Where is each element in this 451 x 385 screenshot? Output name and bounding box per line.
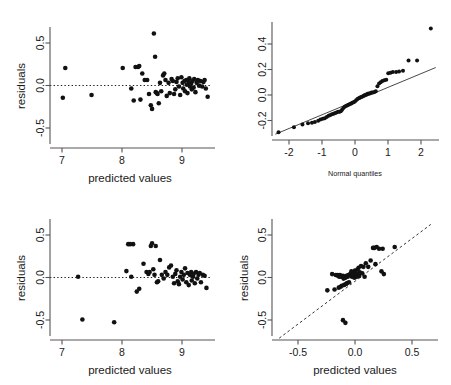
ytick-label: 0.0 [256, 270, 268, 285]
y-axis-title: residuals [15, 255, 27, 301]
data-point [174, 268, 179, 273]
data-point [178, 93, 183, 98]
data-point [193, 281, 198, 286]
x-axis-title: Normal quantiles [328, 169, 382, 178]
data-point [429, 26, 433, 30]
data-point [145, 78, 150, 83]
data-point [325, 288, 330, 293]
data-point [368, 258, 373, 263]
data-point [150, 107, 155, 112]
data-point [193, 90, 198, 95]
data-point [183, 266, 188, 271]
data-point [167, 91, 172, 96]
data-point [332, 287, 337, 292]
data-point [397, 69, 401, 73]
data-point [173, 87, 178, 92]
data-point [89, 93, 94, 98]
axis-y: 0.5 0.0 -0.5 residuals [238, 219, 272, 336]
scatter-plot-bottom-left: 0.5 0.0 -0.5 residuals 7 8 9 predicted v… [0, 193, 226, 385]
data-point [177, 84, 182, 89]
xtick-label: 9 [179, 154, 185, 166]
panel-residuals-vs-predicted-bottom: 0.5 0.0 -0.5 residuals 7 8 9 predicted v… [0, 193, 226, 385]
data-point-series [325, 245, 397, 325]
plot-reference-line-identity [279, 224, 431, 338]
xtick-label: 0 [352, 146, 358, 158]
data-point [186, 283, 191, 288]
x-axis-title: predicted values [88, 172, 172, 184]
data-point [407, 58, 411, 62]
axis-y: 0.4 0.2 0.0 -0.2 [256, 22, 272, 136]
data-point [152, 273, 157, 278]
data-point [373, 262, 378, 267]
xtick-label: -2 [284, 146, 293, 158]
data-point [366, 265, 371, 270]
data-point [179, 75, 184, 80]
data-point [415, 58, 419, 62]
ytick-label: 0.2 [256, 62, 268, 77]
ytick-label: -0.5 [34, 311, 46, 329]
data-point-series [61, 31, 210, 111]
data-point-series [277, 26, 433, 134]
ytick-label: -0.5 [256, 311, 268, 329]
data-point [153, 54, 158, 59]
data-point [204, 286, 209, 291]
data-point [185, 91, 190, 96]
data-point [155, 92, 160, 97]
data-point [162, 71, 167, 76]
data-point [177, 282, 182, 287]
data-point [382, 272, 387, 277]
data-point [156, 279, 161, 284]
data-point [362, 274, 367, 279]
axis-y: 0.5 0.0 -0.5 residuals [15, 219, 50, 336]
xtick-label: 7 [59, 346, 65, 358]
ytick-label: 0.5 [34, 228, 46, 243]
data-point [80, 317, 85, 322]
data-point [131, 98, 136, 103]
xtick-label: 2 [418, 146, 424, 158]
data-point [151, 267, 156, 272]
data-point [343, 321, 348, 326]
data-point [150, 241, 155, 246]
data-point [347, 280, 352, 285]
data-point [392, 245, 397, 250]
scatter-plot-top-left: 0.5 0.0 -0.5 residuals 7 8 9 predicted v… [0, 0, 226, 193]
xtick-label: 7 [59, 154, 65, 166]
axis-x: -2 -1 0 1 2 Normal quantiles [272, 140, 439, 178]
data-point [147, 270, 152, 275]
data-point [120, 66, 125, 71]
x-axis-title: predicted values [313, 364, 397, 376]
data-point [169, 263, 174, 268]
data-point [306, 121, 310, 125]
data-point [131, 242, 136, 247]
ytick-label: 0.0 [34, 78, 46, 93]
data-point [202, 273, 207, 278]
ytick-label: 0.5 [256, 228, 268, 243]
xtick-label: -0.5 [289, 346, 307, 358]
axis-x: 7 8 9 predicted values [50, 340, 215, 376]
data-point [129, 274, 134, 279]
data-point [129, 86, 134, 91]
data-point [199, 280, 204, 285]
xtick-label: -1 [317, 146, 326, 158]
xtick-label: 8 [119, 154, 125, 166]
data-point [166, 81, 171, 86]
data-point [140, 71, 145, 76]
data-point [152, 31, 157, 36]
data-point [277, 130, 281, 134]
diagnostics-figure-grid: 0.5 0.0 -0.5 residuals 7 8 9 predicted v… [0, 0, 451, 385]
scatter-plot-bottom-right: 0.5 0.0 -0.5 residuals -0.5 0.0 0.5 pred… [226, 193, 451, 385]
axis-x: -0.5 0.0 0.5 predicted values [272, 340, 438, 376]
data-point [153, 244, 158, 249]
data-point [401, 69, 405, 73]
y-axis-title: residuals [15, 63, 27, 109]
ytick-label: -0.5 [34, 119, 46, 137]
data-point [204, 86, 209, 91]
data-point [158, 258, 163, 263]
x-axis-title: predicted values [88, 364, 172, 376]
ytick-label: 0.4 [256, 37, 268, 52]
data-point [63, 66, 68, 71]
data-point [112, 320, 117, 325]
data-point [147, 92, 152, 97]
data-point [300, 123, 304, 127]
xtick-label: 1 [385, 146, 391, 158]
